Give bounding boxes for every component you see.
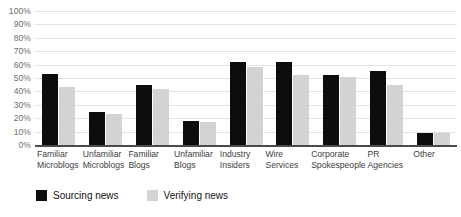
bar[interactable] <box>387 85 403 145</box>
x-axis-labels: FamiliarMicroblogsUnfamiliarMicroblogsFa… <box>35 149 457 170</box>
x-axis-label: PRAgencies <box>366 149 412 170</box>
x-axis-label: Other <box>411 149 457 170</box>
legend: Sourcing newsVerifying news <box>36 190 228 201</box>
y-axis-tick-label: 60% <box>14 60 31 69</box>
y-axis-tick-label: 50% <box>14 74 31 83</box>
bar[interactable] <box>230 62 246 145</box>
y-axis-tick-label: 30% <box>14 101 31 110</box>
x-axis-label: UnfamiliarBlogs <box>172 149 218 170</box>
plot-wrapper: 100%90%80%70%60%50%40%30%20%10%0% Famili… <box>0 0 461 160</box>
x-axis-label: WireServices <box>263 149 309 170</box>
bar-group <box>269 11 316 145</box>
x-axis-label-line: Industry <box>220 149 264 160</box>
bar[interactable] <box>434 133 450 145</box>
bar-group <box>129 11 176 145</box>
bar[interactable] <box>370 71 386 145</box>
legend-item[interactable]: Sourcing news <box>36 190 119 201</box>
bar[interactable] <box>340 77 356 145</box>
x-axis-label-line: Spokespeople <box>311 160 365 171</box>
x-axis-line <box>35 145 457 147</box>
y-axis-tick-label: 20% <box>14 114 31 123</box>
legend-swatch <box>147 190 158 201</box>
bar-group <box>223 11 270 145</box>
x-axis-label-line: Agencies <box>368 160 412 171</box>
x-axis-label-line: Unfamiliar <box>174 149 218 160</box>
x-axis-label-line: Wire <box>265 149 309 160</box>
bar[interactable] <box>417 133 433 145</box>
x-axis-label: IndustryInsiders <box>218 149 264 170</box>
x-axis-label-line: Unfamiliar <box>83 149 127 160</box>
legend-item[interactable]: Verifying news <box>147 190 228 201</box>
x-axis-label: CorporateSpokespeople <box>309 149 365 170</box>
bar-group <box>363 11 410 145</box>
plot-area <box>35 11 457 145</box>
x-axis-label: FamiliarMicroblogs <box>35 149 81 170</box>
bar[interactable] <box>42 74 58 145</box>
bar-group <box>410 11 457 145</box>
y-axis-tick-label: 0% <box>19 141 32 150</box>
bar[interactable] <box>89 112 105 146</box>
x-axis-label-line: PR <box>368 149 412 160</box>
legend-label: Sourcing news <box>53 190 119 201</box>
bar[interactable] <box>323 75 339 145</box>
x-axis-label-line: Insiders <box>220 160 264 171</box>
y-axis-tick-label: 100% <box>9 7 31 16</box>
bar[interactable] <box>183 121 199 145</box>
x-axis-label-line: Blogs <box>174 160 218 171</box>
legend-swatch <box>36 190 47 201</box>
x-axis-label-line: Corporate <box>311 149 365 160</box>
y-axis-tick-label: 70% <box>14 47 31 56</box>
bar-chart: 100%90%80%70%60%50%40%30%20%10%0% Famili… <box>0 0 461 217</box>
bar[interactable] <box>106 114 122 145</box>
bar[interactable] <box>136 85 152 145</box>
bars-layer <box>35 11 457 145</box>
x-axis-label-line: Services <box>265 160 309 171</box>
bar-group <box>316 11 363 145</box>
y-axis-tick-label: 10% <box>14 127 31 136</box>
y-axis-tick-label: 80% <box>14 34 31 43</box>
bar-group <box>176 11 223 145</box>
x-axis-label-line: Microblogs <box>37 160 81 171</box>
y-axis-tick-label: 90% <box>14 20 31 29</box>
x-axis-label-line: Microblogs <box>83 160 127 171</box>
x-axis-label: UnfamiliarMicroblogs <box>81 149 127 170</box>
y-axis: 100%90%80%70%60%50%40%30%20%10%0% <box>0 0 33 148</box>
bar-group <box>35 11 82 145</box>
bar[interactable] <box>293 75 309 145</box>
x-axis-label-line: Familiar <box>128 149 172 160</box>
bar[interactable] <box>276 62 292 145</box>
bar-group <box>82 11 129 145</box>
bar[interactable] <box>153 89 169 145</box>
bar[interactable] <box>247 67 263 145</box>
x-axis-label: FamiliarBlogs <box>126 149 172 170</box>
y-axis-tick-label: 40% <box>14 87 31 96</box>
legend-label: Verifying news <box>164 190 228 201</box>
x-axis-label-line: Blogs <box>128 160 172 171</box>
x-axis-label-line: Familiar <box>37 149 81 160</box>
bar[interactable] <box>200 122 216 145</box>
bar[interactable] <box>59 87 75 145</box>
x-axis-label-line: Other <box>413 149 457 160</box>
